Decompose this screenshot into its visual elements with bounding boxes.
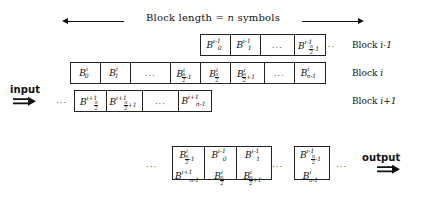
header-text-suffix: symbols bbox=[234, 12, 280, 23]
input-double-arrow-icon bbox=[12, 96, 38, 107]
output-cell-bottom: Bin2+1 bbox=[243, 164, 264, 183]
cell-symbol: Bi+1n2 bbox=[75, 91, 107, 111]
cell-ellipsis: ... bbox=[261, 35, 295, 55]
output-label: output bbox=[362, 152, 400, 163]
output-cell-bottom: Bi+1n-1 bbox=[175, 164, 202, 183]
cell-symbol: Bi-1n2-1 bbox=[295, 35, 325, 55]
output-row-group-b: Bi-1n2-1Bin-1 bbox=[294, 146, 330, 180]
output-trailing-dots: ... bbox=[336, 160, 347, 169]
row-next-leading-dots: ... bbox=[56, 96, 67, 105]
output-cell: Bin2-1Bi+1n-1 bbox=[173, 147, 205, 179]
output-row-group-a: Bin2-1Bi+1n-1Bi-10Bin2Bi-11Bin2+1 bbox=[172, 146, 272, 180]
cell-ellipsis: ... bbox=[143, 91, 179, 111]
output-cell-top: Bin2-1 bbox=[179, 143, 197, 162]
input-label: input bbox=[10, 84, 40, 95]
cell-symbol: Bi1 bbox=[101, 63, 131, 83]
figure-canvas: Block length = n symbols Bi-10Bi-11...Bi… bbox=[0, 0, 426, 202]
row-label-cur-var: i bbox=[380, 68, 383, 78]
output-cell: Bi-10Bin2 bbox=[205, 147, 237, 179]
row-label-cur-prefix: Block bbox=[352, 68, 380, 78]
header-text-prefix: Block length = bbox=[146, 12, 228, 23]
cell-symbol: Bin2+1 bbox=[231, 63, 265, 83]
output-cell-top: Bi-11 bbox=[245, 143, 263, 162]
block-length-header: Block length = n symbols bbox=[0, 10, 426, 30]
output-inner-dots: ... bbox=[272, 160, 283, 169]
header-right-rule bbox=[302, 21, 358, 22]
cell-ellipsis: ... bbox=[265, 63, 295, 83]
cell-symbol: Bi+1n2+1 bbox=[107, 91, 143, 111]
output-cell-bottom: Bin-1 bbox=[303, 164, 321, 183]
cell-ellipsis: ... bbox=[131, 63, 171, 83]
row-label-prev-prefix: Block bbox=[352, 40, 380, 50]
cell-symbol: Bin-1 bbox=[295, 63, 325, 83]
row-label-block-i-minus-1: Block i-1 bbox=[352, 40, 392, 50]
right-arrow-icon bbox=[358, 18, 364, 24]
block-row-i: Bi0Bi1...Bin2-1Bin2Bin2+1...Bin-1 bbox=[70, 62, 326, 84]
block-row-i-plus-1: Bi+1n2Bi+1n2+1...Bi+1n-1 bbox=[74, 90, 212, 112]
output-leading-dots: ... bbox=[146, 160, 157, 169]
output-cell: Bi-11Bin2+1 bbox=[237, 147, 271, 179]
row-label-next-prefix: Block bbox=[352, 96, 380, 106]
output-cell-bottom: Bin2 bbox=[214, 164, 226, 183]
cell-symbol: Bi0 bbox=[71, 63, 101, 83]
row-label-block-i-plus-1: Block i+1 bbox=[352, 96, 396, 106]
cell-symbol: Bin2-1 bbox=[171, 63, 201, 83]
output-double-arrow-icon bbox=[376, 164, 402, 175]
block-row-i-minus-1: Bi-10Bi-11...Bi-1n2-1 bbox=[200, 34, 326, 56]
row-label-prev-var: i-1 bbox=[380, 40, 392, 50]
row-label-next-var: i+1 bbox=[380, 96, 396, 106]
cell-symbol: Bi-11 bbox=[231, 35, 261, 55]
cell-symbol: Bin2 bbox=[201, 63, 231, 83]
cell-symbol: Bi+1n-1 bbox=[179, 91, 211, 111]
cell-symbol: Bi-10 bbox=[201, 35, 231, 55]
output-cell-top: Bi-10 bbox=[211, 143, 229, 162]
row-prev-trailing-dots: ... bbox=[324, 40, 335, 49]
row-label-block-i: Block i bbox=[352, 68, 383, 78]
output-cell: Bi-1n2-1Bin-1 bbox=[295, 147, 329, 179]
output-cell-top: Bi-1n2-1 bbox=[300, 143, 324, 162]
